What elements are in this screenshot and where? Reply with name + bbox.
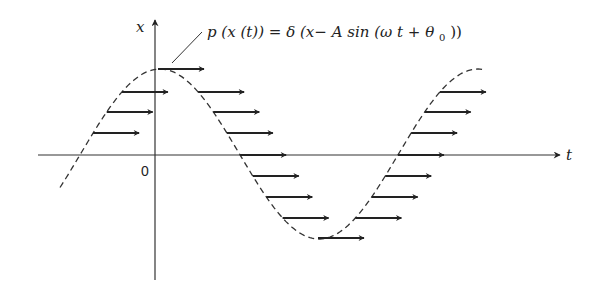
t-axis-label: t [566,146,573,164]
equation: p (x (t)) = δ (x− A sin (ω t + θ 0 )) [207,23,462,45]
delta-arrows [93,69,486,238]
x-axis-label: x [136,18,145,36]
origin-label: 0 [141,163,149,179]
probability-delta-diagram: t x 0 p (x (t)) = δ (x− A sin (ω t + θ 0… [0,0,603,294]
leader-line [172,32,202,63]
